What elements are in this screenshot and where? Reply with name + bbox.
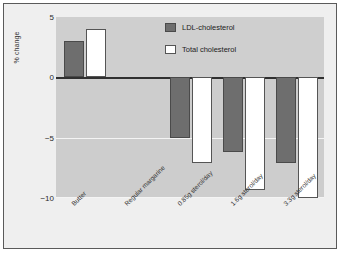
y-axis-tick-labels: 5 0 −5 −10	[26, 4, 54, 250]
legend-label-ldl: LDL-cholesterol	[182, 23, 235, 32]
bar-ldl-butter	[64, 41, 84, 77]
y-axis-title: % change	[13, 16, 20, 80]
chart-figure: % change 5 0 −5 −10	[3, 3, 337, 249]
legend-item-ldl: LDL-cholesterol	[165, 21, 235, 33]
y-tick-label: 0	[28, 73, 54, 82]
legend-swatch-total-icon	[165, 45, 176, 54]
x-axis-tick-labels: Butter Regular margarine 0.85g sterol/da…	[56, 198, 324, 250]
bar-group-butter	[64, 17, 112, 198]
y-tick-label: −5	[28, 133, 54, 142]
bar-total-085g-sterol	[192, 77, 212, 163]
bar-ldl-33g-sterol	[276, 77, 296, 163]
y-tick-label: −10	[28, 194, 54, 203]
bar-total-16g-sterol	[245, 77, 265, 189]
legend-item-total: Total cholesterol	[165, 43, 236, 55]
legend-swatch-ldl-icon	[165, 23, 176, 32]
bar-ldl-16g-sterol	[223, 77, 243, 152]
legend-label-total: Total cholesterol	[182, 45, 236, 54]
bar-group-33g-sterol	[276, 17, 324, 198]
y-tick-label: 5	[28, 13, 54, 22]
bar-ldl-085g-sterol	[170, 77, 190, 137]
chart-legend: LDL-cholesterol Total cholesterol	[165, 17, 275, 59]
bar-total-butter	[86, 29, 106, 77]
